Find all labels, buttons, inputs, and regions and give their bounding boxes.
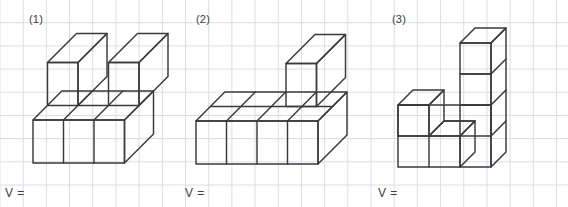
figure-2-label: (2): [196, 13, 210, 25]
figure-3-volume-prompt: V =: [378, 186, 398, 200]
figure-3-label: (3): [392, 13, 406, 25]
figure-1-cubes: [33, 34, 168, 164]
worksheet-page: (1) (2) (3) V = V = V =: [0, 0, 568, 207]
figure-3-cubes: [398, 28, 506, 167]
cube-figures-drawing: [0, 0, 568, 207]
figure-1-volume-prompt: V =: [5, 186, 25, 200]
figure-2-volume-prompt: V =: [185, 186, 205, 200]
figure-1-label: (1): [29, 13, 43, 25]
figure-2-cubes: [196, 35, 347, 165]
